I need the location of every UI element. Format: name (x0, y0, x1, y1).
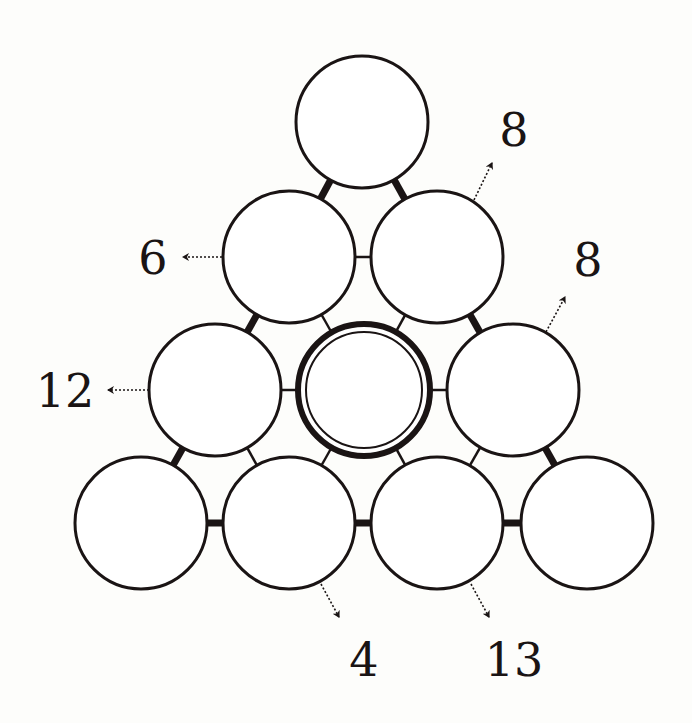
circle-outline[interactable] (447, 324, 579, 456)
clue-right-row3: 8 (573, 237, 602, 283)
circle-cell[interactable] (447, 324, 579, 456)
circle-outline[interactable] (223, 191, 355, 323)
circle-outline[interactable] (371, 191, 503, 323)
dotted-arrow-icon (546, 297, 565, 332)
clue-bottom-13: 13 (485, 637, 544, 683)
circle-outline[interactable] (371, 457, 503, 589)
dotted-arrow-icon (474, 163, 492, 200)
clue-top-right: 8 (499, 107, 528, 153)
clue-left-row3: 12 (36, 368, 95, 414)
diagram-canvas (0, 0, 692, 723)
circle-outline[interactable] (521, 457, 653, 589)
clue-bottom-4: 4 (349, 637, 378, 683)
circle-cell[interactable] (296, 56, 428, 188)
clue-left-row2: 6 (138, 235, 167, 281)
circle-outline[interactable] (149, 324, 281, 456)
dotted-arrow-icon (321, 584, 339, 617)
circle-cell[interactable] (75, 457, 207, 589)
circle-cell[interactable] (149, 324, 281, 456)
circle-outline[interactable] (75, 457, 207, 589)
circles (75, 56, 653, 589)
circle-cell[interactable] (223, 457, 355, 589)
circle-cell[interactable] (223, 191, 355, 323)
circle-cell[interactable] (371, 191, 503, 323)
circle-outline[interactable] (223, 457, 355, 589)
pyramid-puzzle-diagram: 86812413 (0, 0, 692, 723)
dotted-arrow-icon (471, 584, 489, 617)
circle-cell[interactable] (371, 457, 503, 589)
circle-cell-highlighted[interactable] (298, 324, 430, 456)
circle-cell[interactable] (521, 457, 653, 589)
circle-outline[interactable] (296, 56, 428, 188)
circle-outline[interactable] (298, 324, 430, 456)
